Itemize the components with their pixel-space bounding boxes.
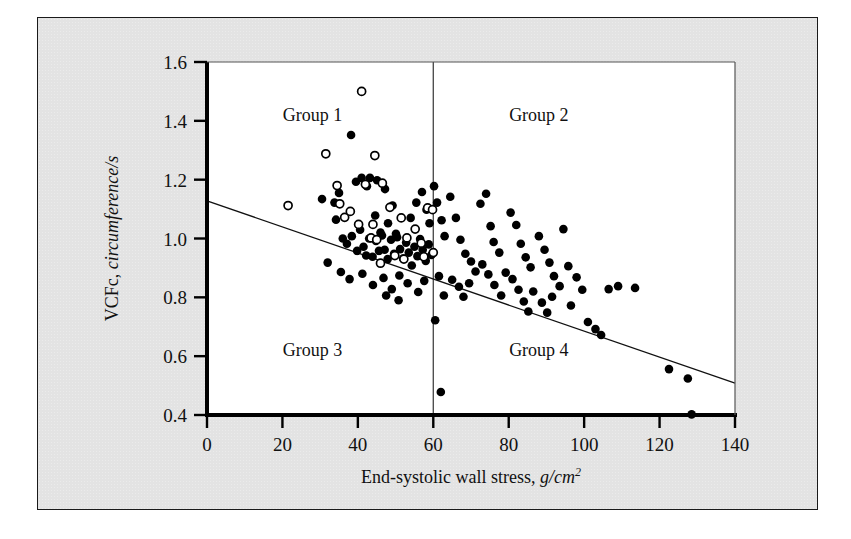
data-point-filled: [555, 282, 564, 291]
data-point-filled: [430, 182, 439, 191]
data-point-filled: [484, 270, 493, 279]
x-tick-label-100: 100: [570, 434, 599, 455]
data-point-filled: [631, 284, 640, 293]
data-point-open: [369, 220, 377, 228]
data-point-open: [358, 87, 366, 95]
data-point-filled: [414, 288, 423, 297]
data-point-filled: [665, 365, 674, 374]
data-point-open: [411, 225, 419, 233]
data-point-open: [371, 152, 379, 160]
data-point-filled: [380, 245, 389, 254]
data-point-filled: [550, 272, 559, 281]
data-point-open: [336, 200, 344, 208]
data-point-open: [400, 255, 408, 263]
y-tick-label-0.4: 0.4: [163, 405, 187, 426]
data-point-open: [376, 259, 384, 267]
data-point-filled: [501, 268, 510, 277]
x-tick-label-140: 140: [721, 434, 750, 455]
y-axis-title: VCFc, circumference/s: [102, 156, 122, 322]
data-point-filled: [578, 285, 587, 294]
data-point-filled: [614, 282, 623, 291]
data-point-filled: [524, 307, 533, 316]
data-point-filled: [393, 233, 402, 242]
data-point-open: [322, 150, 330, 158]
y-tick-label-1.4: 1.4: [163, 111, 187, 132]
data-point-filled: [448, 275, 457, 284]
data-point-filled: [425, 219, 434, 228]
y-tick-label-1.6: 1.6: [163, 52, 187, 73]
data-point-filled: [459, 292, 468, 301]
annotation-group-4: Group 4: [509, 340, 569, 360]
data-point-filled: [343, 239, 352, 248]
data-point-filled: [564, 262, 573, 271]
data-point-filled: [358, 270, 367, 279]
data-point-filled: [437, 216, 446, 225]
data-point-filled: [323, 258, 332, 267]
scatter-plot: 0.40.60.81.01.21.41.6020406080100120140E…: [0, 0, 851, 539]
data-point-filled: [548, 292, 557, 301]
data-point-filled: [407, 261, 416, 270]
data-point-open: [420, 253, 428, 261]
data-point-filled: [684, 374, 693, 383]
data-point-filled: [446, 192, 455, 201]
x-tick-label-120: 120: [645, 434, 674, 455]
data-point-filled: [379, 274, 388, 283]
data-point-open: [284, 202, 292, 210]
data-point-filled: [529, 287, 538, 296]
data-point-filled: [495, 248, 504, 257]
annotation-group-2: Group 2: [509, 105, 569, 125]
data-point-filled: [369, 281, 378, 290]
data-point-filled: [455, 282, 464, 291]
data-point-filled: [420, 277, 429, 286]
data-point-open: [417, 239, 425, 247]
data-point-open: [403, 234, 411, 242]
x-tick-label-60: 60: [424, 434, 443, 455]
data-point-filled: [490, 281, 499, 290]
y-tick-label-1.2: 1.2: [163, 170, 187, 191]
data-point-filled: [394, 296, 403, 305]
annotation-group-1: Group 1: [283, 105, 343, 125]
figure-root: 0.40.60.81.01.21.41.6020406080100120140E…: [0, 0, 851, 539]
data-point-filled: [604, 285, 613, 294]
x-axis-title: End-systolic wall stress, g/cm2: [361, 465, 581, 487]
data-point-filled: [467, 257, 476, 266]
data-point-filled: [520, 297, 529, 306]
data-point-filled: [388, 285, 397, 294]
data-point-filled: [418, 188, 427, 197]
data-point-filled: [337, 268, 346, 277]
data-point-open: [361, 180, 369, 188]
data-point-filled: [514, 285, 523, 294]
data-point-filled: [486, 222, 495, 231]
data-point-filled: [403, 279, 412, 288]
x-tick-label-20: 20: [273, 434, 292, 455]
data-point-open: [429, 249, 437, 257]
data-point-filled: [512, 221, 521, 230]
data-point-filled: [543, 308, 552, 317]
annotation-group-3: Group 3: [283, 340, 343, 360]
data-point-filled: [359, 242, 368, 251]
data-point-open: [373, 236, 381, 244]
data-point-filled: [521, 253, 530, 262]
data-point-filled: [482, 189, 491, 198]
data-point-open: [378, 179, 386, 187]
data-point-open: [397, 214, 405, 222]
data-point-open: [429, 206, 437, 214]
data-point-filled: [384, 219, 393, 228]
data-point-filled: [431, 316, 440, 325]
data-point-filled: [489, 238, 498, 247]
data-point-filled: [348, 232, 357, 241]
data-point-filled: [437, 388, 446, 397]
data-point-open: [346, 207, 354, 215]
data-point-filled: [540, 245, 549, 254]
data-point-filled: [368, 252, 377, 261]
data-point-filled: [440, 232, 449, 241]
data-point-filled: [506, 208, 515, 217]
x-tick-label-80: 80: [499, 434, 518, 455]
data-point-filled: [584, 318, 593, 327]
data-point-filled: [382, 291, 391, 300]
data-point-filled: [508, 275, 517, 284]
data-point-filled: [412, 198, 421, 207]
data-point-filled: [572, 273, 581, 282]
data-point-open: [386, 203, 394, 211]
data-point-filled: [535, 232, 544, 241]
